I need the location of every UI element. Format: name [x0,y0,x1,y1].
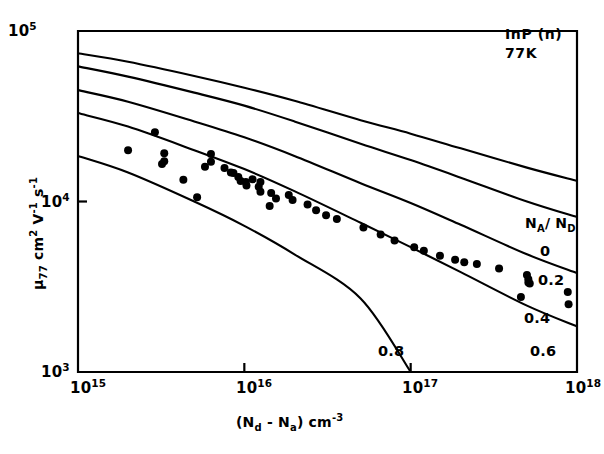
data-point [272,195,280,203]
data-point [410,243,418,251]
figure-container: 105 104 103 1015 1016 1017 1018 μ77 cm2 … [0,0,604,454]
data-point [322,211,330,219]
data-point [359,223,367,231]
data-point [377,231,385,239]
x-axis-title: (Nd - Na) cm-3 [236,414,343,430]
data-point [436,252,444,260]
data-point [256,188,264,196]
model-curve-0 [78,53,577,181]
data-point [207,150,215,158]
data-point [564,288,572,296]
data-point [289,196,297,204]
x-tick-label-1e15: 1015 [70,379,106,397]
y-tick-label-1e3: 103 [41,363,70,381]
data-point [266,202,274,210]
data-points [124,128,573,308]
data-point [160,149,168,157]
data-point [526,280,534,288]
data-point [312,206,320,214]
curve-label-0-4: 0.4 [524,310,550,326]
y-axis-title: μ77 cm2 V-1 s-1 [30,177,46,290]
annotation-material: InP (n) [505,26,562,42]
data-point [242,182,250,190]
curve-label-0: 0 [540,243,550,259]
data-point [201,163,209,171]
data-point [124,146,132,154]
data-point [391,237,399,245]
x-tick-label-1e18: 1018 [565,379,601,397]
data-point [304,201,312,209]
model-curve-0-4 [78,90,577,273]
data-point [565,300,573,308]
legend-title: NA/ ND [525,215,576,231]
x-tick-label-1e16: 1016 [236,379,272,397]
curve-label-0-8: 0.8 [378,343,404,359]
data-point [495,264,503,272]
data-point [158,160,166,168]
data-point [460,258,468,266]
data-point [249,175,257,183]
model-curve-0-6 [78,113,577,326]
data-point [451,256,459,264]
data-point [473,260,481,268]
model-curve-0-2 [78,66,577,217]
curve-label-0-2: 0.2 [538,272,564,288]
data-point [333,215,341,223]
data-point [193,193,201,201]
data-point [179,176,187,184]
y-tick-label-1e5: 105 [8,22,37,40]
x-tick-label-1e17: 1017 [402,379,438,397]
data-point [517,293,525,301]
data-point [151,128,159,136]
annotation-temperature: 77K [505,45,537,61]
curve-label-0-6: 0.6 [530,343,556,359]
data-point [420,247,428,255]
